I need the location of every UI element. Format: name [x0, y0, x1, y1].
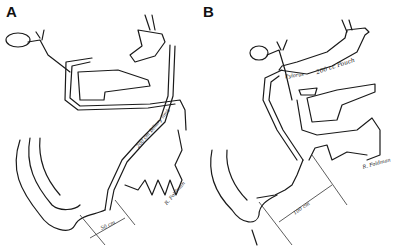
panel-b: B Pylorus 200 cc Pouch 100 cm R. Foldman: [197, 0, 394, 252]
gallbladder-icon: [6, 33, 30, 47]
pancreas-icon: [78, 70, 150, 100]
panel-a-drawing: [0, 0, 197, 252]
panel-a: A 200 cm Biliary limb 50 cm R. Foldman: [0, 0, 197, 252]
gallbladder-icon: [250, 46, 268, 60]
pancreas-icon: [307, 84, 375, 122]
stomach-icon: [130, 30, 165, 62]
